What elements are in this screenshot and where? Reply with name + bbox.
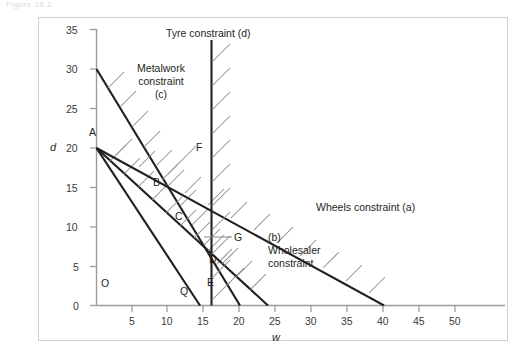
point-label-Q: Q	[180, 285, 188, 297]
wholesaler-label-line3: constraint	[268, 257, 314, 269]
metalwork-constraint-label: Metalwork constraint (c)	[118, 62, 204, 101]
point-label-E: E	[207, 276, 214, 288]
x-tick-40: 40	[377, 315, 389, 327]
wholesaler-label-line1: (b)	[268, 231, 281, 243]
x-tick-5: 5	[129, 315, 135, 327]
metalwork-label-line3: (c)	[155, 88, 167, 100]
metalwork-label-line1: Metalwork	[137, 62, 185, 74]
wholesaler-label-line2: Wholesaler	[268, 244, 321, 256]
point-label-G: G	[234, 231, 242, 243]
x-axis-ticks	[132, 306, 455, 313]
wholesaler-constraint-label: (b) Wholesaler constraint	[268, 231, 350, 270]
point-label-O: O	[101, 277, 109, 289]
x-axis-label: w	[272, 331, 280, 343]
objective-line	[97, 148, 201, 306]
point-label-B: B	[153, 176, 160, 188]
y-tick-20: 20	[66, 142, 78, 154]
y-tick-25: 25	[66, 103, 78, 115]
y-tick-30: 30	[66, 63, 78, 75]
tyre-constraint-line	[212, 40, 231, 306]
x-tick-20: 20	[233, 315, 245, 327]
x-tick-10: 10	[161, 315, 173, 327]
x-tick-25: 25	[269, 315, 281, 327]
x-tick-35: 35	[341, 315, 353, 327]
tyre-constraint-label: Tyre constraint (d)	[166, 27, 251, 40]
point-label-A: A	[89, 126, 96, 138]
y-tick-10: 10	[66, 221, 78, 233]
y-axis-label: d	[50, 141, 56, 153]
x-tick-50: 50	[449, 315, 461, 327]
x-tick-45: 45	[413, 315, 425, 327]
y-tick-15: 15	[66, 182, 78, 194]
x-tick-30: 30	[305, 315, 317, 327]
figure-container: Figure 16.2	[0, 0, 519, 359]
metalwork-label-line2: constraint	[138, 75, 184, 87]
x-tick-15: 15	[197, 315, 209, 327]
point-label-D: D	[209, 253, 217, 265]
wheels-constraint-label: Wheels constraint (a)	[316, 201, 415, 214]
wholesaler-constraint-line	[97, 145, 269, 306]
y-tick-0: 0	[73, 300, 79, 312]
y-axis-ticks	[90, 30, 97, 306]
point-label-C: C	[175, 210, 183, 222]
y-tick-35: 35	[66, 24, 78, 36]
y-tick-5: 5	[73, 261, 79, 273]
point-label-F: F	[196, 141, 202, 153]
